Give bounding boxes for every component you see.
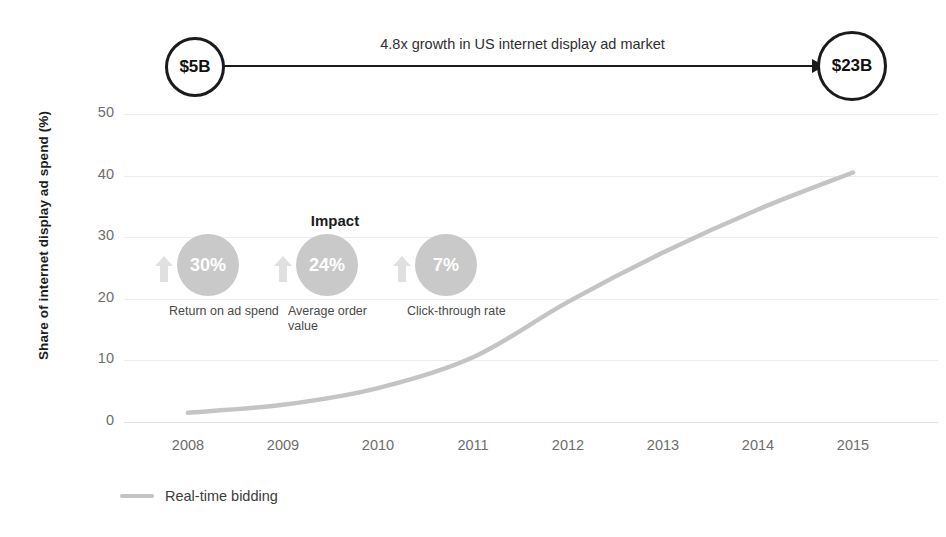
impact-value-bubble-2: 24% bbox=[296, 234, 358, 296]
legend-swatch-real-time-bidding bbox=[120, 494, 154, 498]
end-value-circle: $23B bbox=[817, 31, 887, 101]
legend-label-real-time-bidding: Real-time bidding bbox=[165, 488, 278, 504]
up-arrow-icon bbox=[274, 256, 292, 282]
chart-legend: Real-time bidding bbox=[120, 488, 278, 504]
impact-caption-2: Average order value bbox=[288, 304, 398, 334]
growth-arrow-line bbox=[222, 65, 822, 67]
impact-callout: Impact 30%Return on ad spend24%Average o… bbox=[155, 212, 555, 342]
start-value-circle: $5B bbox=[165, 37, 225, 97]
growth-label: 4.8x growth in US internet display ad ma… bbox=[250, 36, 795, 52]
impact-value-bubble-1: 30% bbox=[177, 234, 239, 296]
impact-caption-1: Return on ad spend bbox=[169, 304, 279, 319]
up-arrow-icon bbox=[155, 256, 173, 282]
growth-banner: $5B 4.8x growth in US internet display a… bbox=[0, 0, 946, 105]
impact-value-bubble-3: 7% bbox=[415, 234, 477, 296]
impact-caption-3: Click-through rate bbox=[407, 304, 517, 319]
up-arrow-icon bbox=[393, 256, 411, 282]
line-chart: Share of internet display ad spend (%) 0… bbox=[0, 100, 946, 460]
impact-title: Impact bbox=[265, 212, 405, 229]
